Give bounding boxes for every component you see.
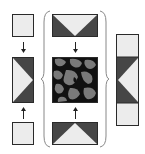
left-middle-patch <box>12 57 34 103</box>
middle-top-patch <box>52 14 98 37</box>
middle-texture-patch <box>52 57 98 103</box>
middle-bottom-patch <box>52 122 98 145</box>
left-bottom-patch <box>12 122 34 145</box>
right-curly-brace <box>98 10 110 148</box>
right-result-strip <box>116 34 139 126</box>
middle-down-arrow <box>72 42 79 54</box>
left-top-patch <box>12 14 34 37</box>
left-curly-brace <box>40 10 52 148</box>
middle-up-arrow <box>72 107 79 119</box>
left-up-arrow <box>20 107 27 119</box>
left-down-arrow <box>20 42 27 54</box>
